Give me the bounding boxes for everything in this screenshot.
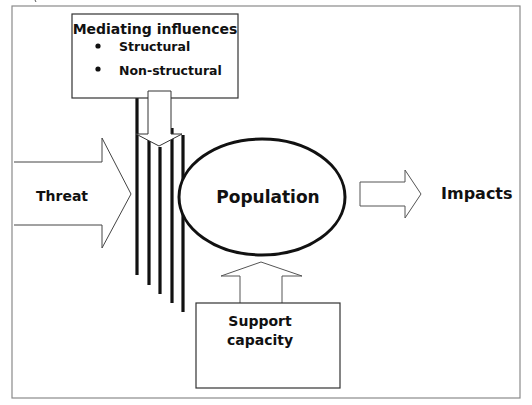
population-label: Population — [216, 187, 319, 207]
diagram-canvas: Mediating influences Structural Non-stru… — [0, 0, 532, 405]
mediating-influences-title: Mediating influences — [73, 21, 238, 37]
top-mark — [35, 0, 36, 2]
support-capacity-line2: capacity — [227, 332, 293, 348]
bullet-icon — [95, 66, 100, 71]
mediating-item-non-structural: Non-structural — [119, 63, 222, 78]
mediating-item-structural: Structural — [119, 39, 190, 54]
threat-label: Threat — [36, 188, 88, 204]
bullet-icon — [95, 43, 100, 48]
impacts-label: Impacts — [441, 184, 513, 203]
support-capacity-line1: Support — [228, 313, 292, 329]
